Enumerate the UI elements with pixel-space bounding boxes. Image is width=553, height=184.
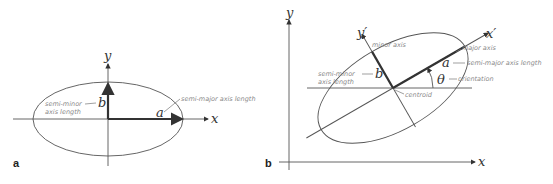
orientation-note: orientation: [458, 75, 494, 83]
semi-major-symbol: a: [156, 105, 164, 120]
semi-minor-symbol: b: [98, 95, 106, 110]
panel-label-b: b: [265, 157, 272, 169]
semi-minor-leader: [85, 103, 96, 104]
y-prime-label: y′: [356, 25, 367, 40]
y-axis-label: y: [285, 5, 294, 20]
centroid-note: centroid: [405, 91, 433, 99]
x-prime-label: x′: [486, 26, 496, 41]
theta-symbol: θ: [437, 72, 445, 87]
semi-major-symbol: a: [442, 55, 450, 70]
semi-minor-note-line2: axis length: [318, 78, 354, 86]
panel-b: x y x′ y′ a b θ minor axis major axis se…: [265, 0, 542, 177]
semi-major-note: semi-major axis length: [181, 95, 256, 103]
x-axis-label: x: [478, 154, 486, 169]
semi-minor-note-line1: semi-minor: [318, 70, 356, 78]
minor-axis-note: minor axis: [372, 41, 407, 49]
panel-a: x y b a semi-minor axis length semi-majo…: [13, 48, 256, 169]
semi-minor-note-line1: semi-minor: [45, 100, 83, 108]
semi-major-note: semi-major axis length: [467, 59, 542, 67]
semi-major-segment: [393, 47, 465, 89]
x-axis-label: x: [211, 111, 219, 126]
semi-minor-note-line2: axis length: [45, 108, 81, 116]
panel-label-a: a: [13, 157, 20, 169]
orientation-arc: [428, 68, 433, 88]
major-axis-note: major axis: [462, 44, 496, 52]
y-axis-label: y: [103, 48, 112, 63]
ellipse-diagram: x y b a semi-minor axis length semi-majo…: [0, 0, 553, 184]
semi-minor-symbol: b: [375, 66, 383, 81]
